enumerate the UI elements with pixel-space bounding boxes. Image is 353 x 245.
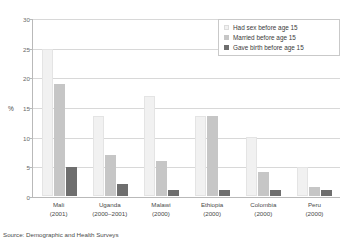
chart-figure: 051015202530 % Mali(2001)Uganda(2000–200… [0, 0, 353, 245]
x-tick-year: (2000) [135, 209, 186, 218]
legend-swatch-icon [224, 25, 229, 30]
bar [66, 167, 77, 197]
x-axis-labels: Mali(2001)Uganda(2000–2001)Malawi(2000)E… [33, 200, 340, 218]
bar [297, 167, 308, 197]
y-tick-mark [29, 197, 32, 198]
gridline [33, 197, 340, 198]
bar [321, 190, 332, 196]
legend-swatch-icon [224, 45, 229, 50]
x-tick-label: Ethiopia(2000) [187, 200, 238, 218]
x-tick-country: Ethiopia [201, 201, 223, 208]
y-tick-label: 30 [4, 16, 30, 23]
legend-swatch-icon [224, 35, 229, 40]
bar [156, 161, 167, 196]
y-tick-label: 0 [4, 194, 30, 201]
bar [117, 184, 128, 196]
source-note: Source: Demographic and Health Surveys [3, 231, 119, 238]
chart-legend: Had sex before age 15 Married before age… [218, 19, 340, 56]
y-tick-mark [29, 19, 32, 20]
y-tick-label: 10 [4, 134, 30, 141]
x-tick-label: Uganda(2000–2001) [84, 200, 135, 218]
chart-title-strip [0, 0, 353, 11]
x-tick-country: Malawi [151, 201, 170, 208]
x-tick-label: Colombia(2000) [238, 200, 289, 218]
y-tick-mark [29, 49, 32, 50]
bar [144, 96, 155, 196]
bar [207, 116, 218, 196]
legend-label: Married before age 15 [233, 34, 296, 41]
legend-label: Gave birth before age 15 [233, 44, 304, 51]
y-tick-mark [29, 78, 32, 79]
legend-item: Had sex before age 15 [224, 24, 334, 31]
bar [54, 84, 65, 196]
bar [168, 190, 179, 196]
bar [219, 190, 230, 196]
bar [270, 190, 281, 196]
bar-group [85, 19, 136, 196]
legend-label: Had sex before age 15 [233, 24, 298, 31]
bar [258, 172, 269, 196]
y-tick-mark [29, 138, 32, 139]
y-tick-label: 5 [4, 164, 30, 171]
y-tick-mark [29, 108, 32, 109]
y-tick-label: 20 [4, 75, 30, 82]
bar [105, 155, 116, 196]
x-tick-label: Mali(2001) [33, 200, 84, 218]
bar-group [34, 19, 85, 196]
bar [309, 187, 320, 196]
y-tick-label: 25 [4, 45, 30, 52]
x-tick-country: Uganda [99, 201, 121, 208]
x-tick-year: (2000) [187, 209, 238, 218]
y-axis-label: % [8, 105, 14, 112]
x-tick-label: Peru(2000) [289, 200, 340, 218]
bar [246, 137, 257, 196]
y-tick-mark [29, 167, 32, 168]
x-tick-label: Malawi(2000) [135, 200, 186, 218]
bar-group [136, 19, 187, 196]
bar [93, 116, 104, 196]
x-tick-country: Colombia [250, 201, 276, 208]
x-tick-year: (2000) [289, 209, 340, 218]
x-tick-year: (2001) [33, 209, 84, 218]
bar [42, 49, 53, 197]
x-tick-year: (2000–2001) [84, 209, 135, 218]
legend-item: Married before age 15 [224, 34, 334, 41]
x-tick-country: Mali [53, 201, 64, 208]
x-tick-year: (2000) [238, 209, 289, 218]
x-tick-country: Peru [308, 201, 321, 208]
bar [195, 116, 206, 196]
legend-item: Gave birth before age 15 [224, 44, 334, 51]
